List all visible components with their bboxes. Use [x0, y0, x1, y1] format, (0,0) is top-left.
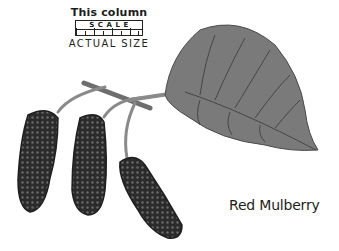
berries — [18, 111, 182, 239]
leaf — [165, 25, 318, 150]
berry-3 — [120, 158, 182, 239]
berry-1 — [18, 111, 58, 212]
species-name: Red Mulberry — [229, 197, 320, 213]
mulberry-illustration — [0, 0, 339, 251]
berry-2 — [72, 115, 106, 215]
